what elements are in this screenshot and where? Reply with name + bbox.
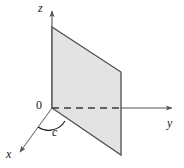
z-axis-label: z (38, 2, 43, 14)
origin-label: 0 (36, 99, 42, 111)
x-axis-label: x (6, 148, 11, 160)
y-axis-label: y (167, 117, 172, 129)
shaded-plane-region (52, 27, 121, 155)
angle-label-c: c (52, 126, 57, 138)
diagram-canvas (0, 0, 184, 168)
figure-container: z y x 0 c (0, 0, 184, 168)
